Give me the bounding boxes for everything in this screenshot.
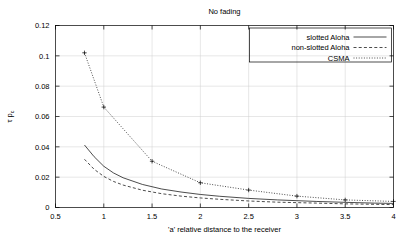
- series-line-csma: [84, 53, 393, 202]
- y-axis-label: τ pc: [5, 110, 15, 122]
- x-tick-label: 1.5: [147, 212, 157, 221]
- legend-label-slotted-aloha: slotted Aloha: [307, 33, 351, 42]
- x-tick-label: 3: [295, 212, 299, 221]
- y-tick-label: 0.1: [39, 52, 49, 61]
- chart-title: No fading: [208, 7, 240, 16]
- legend-label-csma: CSMA: [328, 54, 350, 63]
- y-tick-label: 0: [45, 203, 49, 212]
- x-tick-label: 4: [391, 212, 395, 221]
- y-tick-label: 0.12: [35, 21, 50, 30]
- x-axis-label: 'a' relative distance to the receiver: [168, 225, 281, 234]
- x-tick-label: 1: [102, 212, 106, 221]
- chart-figure: 00.020.040.060.080.10.120.511.522.533.54…: [0, 0, 405, 241]
- x-tick-label: 2: [198, 212, 202, 221]
- legend-label-non-slotted-aloha: non-slotted Aloha: [292, 43, 351, 52]
- x-tick-label: 3.5: [340, 212, 350, 221]
- y-tick-label: 0.02: [35, 173, 50, 182]
- x-tick-label: 2.5: [243, 212, 253, 221]
- y-tick-label: 0.08: [35, 82, 50, 91]
- series-line-slotted-aloha: [84, 145, 393, 203]
- x-tick-label: 0.5: [50, 212, 60, 221]
- y-tick-label: 0.06: [35, 112, 50, 121]
- y-tick-label: 0.04: [35, 143, 50, 152]
- chart-canvas: 00.020.040.060.080.10.120.511.522.533.54…: [0, 0, 405, 241]
